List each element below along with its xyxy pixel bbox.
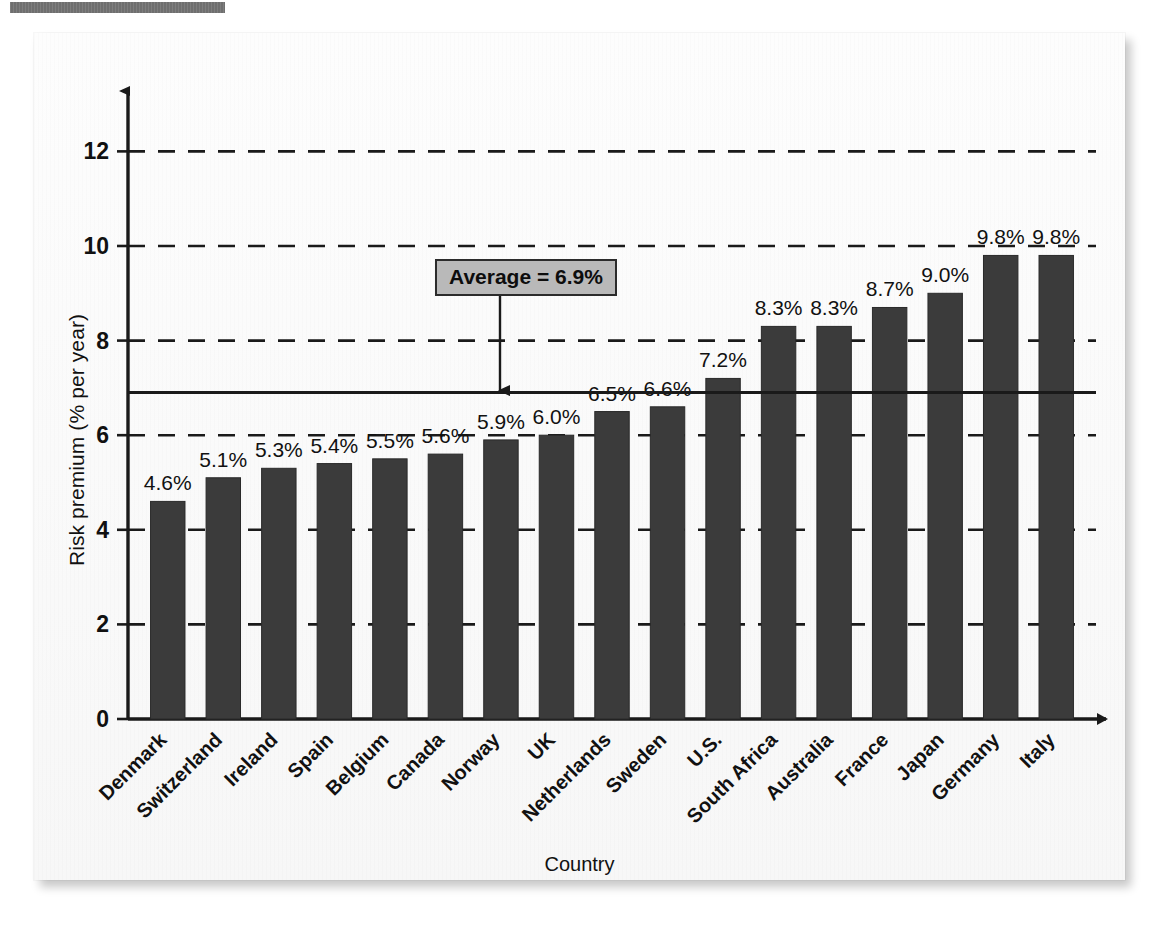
category-label: Spain [283,728,337,782]
bar[interactable] [484,440,518,719]
x-axis-title: Country [34,853,1125,876]
bar[interactable] [151,501,185,719]
y-tick-label: 8 [96,328,109,354]
bar-value-label: 5.9% [477,410,525,433]
category-label: UK [523,728,559,764]
bar-value-label: 5.1% [199,448,247,471]
bar-value-label: 7.2% [699,348,747,371]
category-label: Italy [1015,728,1059,772]
category-labels-group: DenmarkSwitzerlandIrelandSpainBelgiumCan… [94,728,1059,828]
bar[interactable] [928,293,962,719]
header-strip [10,2,225,13]
bar-value-label: 9.8% [1032,225,1080,248]
bar[interactable] [317,464,351,719]
bar[interactable] [1039,255,1073,719]
bar[interactable] [373,459,407,719]
bar-value-label: 6.0% [533,405,581,428]
bar[interactable] [595,412,629,719]
bar[interactable] [706,378,740,719]
y-tick-label: 12 [83,138,109,164]
bar-value-label: 6.6% [644,377,692,400]
bar[interactable] [428,454,462,719]
bar-value-label: 9.0% [921,263,969,286]
bar-value-label: 5.5% [366,429,414,452]
category-label: Sweden [601,728,670,797]
chart-canvas: 4.6%5.1%5.3%5.4%5.5%5.6%5.9%6.0%6.5%6.6%… [34,33,1125,880]
bar-value-label: 8.3% [810,296,858,319]
y-axis-title: Risk premium (% per year) [65,205,89,675]
bar[interactable] [206,478,240,719]
y-tick-label: 0 [96,706,109,732]
bar[interactable] [539,435,573,719]
y-tick-label: 2 [96,611,109,637]
bar[interactable] [983,255,1017,719]
bar-chart: 4.6%5.1%5.3%5.4%5.5%5.6%5.9%6.0%6.5%6.6%… [34,33,1125,880]
category-label: Norway [437,728,504,795]
category-label: Ireland [220,728,282,790]
bar-value-label: 5.6% [421,424,469,447]
bar-value-label: 5.3% [255,438,303,461]
bar-value-label: 4.6% [144,471,192,494]
bar-value-label: 8.3% [755,296,803,319]
y-tick-label: 6 [96,422,109,448]
category-label: U.S. [683,728,726,771]
bar[interactable] [262,468,296,719]
category-label: Canada [382,728,449,795]
bar-value-label: 9.8% [977,225,1025,248]
category-label: France [831,728,893,790]
bars-group [151,255,1074,719]
bar[interactable] [761,326,795,719]
bar[interactable] [872,307,906,719]
average-callout: Average = 6.9% [435,259,617,296]
bar-value-label: 5.4% [310,434,358,457]
bar[interactable] [817,326,851,719]
bar[interactable] [650,407,684,719]
bar-value-label: 8.7% [866,277,914,300]
y-tick-label: 4 [96,517,109,543]
figure-panel: 4.6%5.1%5.3%5.4%5.5%5.6%5.9%6.0%6.5%6.6%… [34,33,1125,880]
